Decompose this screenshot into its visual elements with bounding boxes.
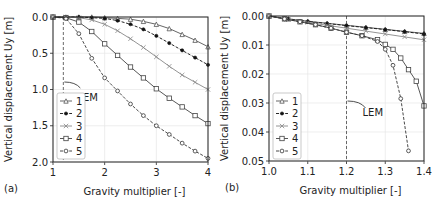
open-circle-marker bbox=[314, 23, 318, 27]
open-circle-marker bbox=[167, 133, 171, 137]
open-circle-marker bbox=[154, 124, 158, 128]
x-tick-label: 1.4 bbox=[416, 166, 432, 177]
open-circle-marker bbox=[64, 149, 68, 153]
legend-label-5: 5 bbox=[76, 146, 82, 157]
square-marker bbox=[180, 105, 184, 109]
legend-label-2: 2 bbox=[292, 108, 298, 119]
y-tick-label: 2.0 bbox=[32, 157, 48, 168]
filled-circle-marker bbox=[142, 28, 145, 31]
square-marker bbox=[193, 113, 197, 117]
triangle-marker bbox=[180, 32, 184, 36]
y-tick-label: 0.01 bbox=[242, 40, 264, 51]
x-axis-label: Gravity multiplier [-] bbox=[299, 185, 401, 196]
x-tick-label: 1.1 bbox=[300, 166, 316, 177]
y-tick-label: 1.0 bbox=[32, 84, 48, 95]
open-circle-marker bbox=[180, 141, 184, 145]
open-circle-marker bbox=[116, 89, 120, 93]
square-marker bbox=[77, 20, 81, 24]
chart-panel-b: 1.01.11.21.31.40.000.010.020.030.040.05L… bbox=[219, 11, 432, 197]
filled-circle-marker bbox=[181, 49, 184, 52]
triangle-marker bbox=[128, 17, 132, 21]
legend-label-4: 4 bbox=[292, 133, 298, 144]
chart-panel-a: 12340.00.51.01.52.0LEM12345Gravity multi… bbox=[3, 12, 211, 198]
x-marker bbox=[167, 64, 171, 68]
open-circle-marker bbox=[103, 76, 107, 80]
x-tick-label: 3 bbox=[153, 167, 159, 178]
square-marker bbox=[90, 29, 94, 33]
filled-circle-marker bbox=[384, 28, 387, 31]
filled-circle-marker bbox=[364, 26, 367, 29]
panel-label: (b) bbox=[225, 182, 239, 193]
y-tick-label: 0.04 bbox=[242, 127, 264, 138]
lem-label: LEM bbox=[363, 107, 384, 118]
legend-label-5: 5 bbox=[292, 146, 298, 157]
x-marker bbox=[180, 73, 184, 77]
open-circle-marker bbox=[77, 32, 81, 36]
square-marker bbox=[399, 56, 403, 60]
square-marker bbox=[406, 67, 410, 71]
x-marker bbox=[128, 37, 132, 41]
filled-circle-marker bbox=[155, 34, 158, 37]
y-tick-label: 0.5 bbox=[32, 48, 48, 59]
x-tick-label: 1.2 bbox=[339, 166, 355, 177]
open-circle-marker bbox=[407, 149, 411, 153]
legend-label-1: 1 bbox=[292, 96, 298, 107]
y-axis-label: Vertical displacement Uy [m] bbox=[219, 16, 230, 161]
x-tick-label: 2 bbox=[101, 167, 107, 178]
square-marker bbox=[128, 65, 132, 69]
square-marker bbox=[141, 76, 145, 80]
open-circle-marker bbox=[193, 149, 197, 153]
square-marker bbox=[64, 136, 68, 140]
open-circle-marker bbox=[345, 30, 349, 34]
triangle-marker bbox=[193, 38, 197, 42]
square-marker bbox=[383, 42, 387, 46]
filled-circle-marker bbox=[64, 112, 67, 115]
filled-circle-marker bbox=[129, 23, 132, 26]
x-tick-label: 1 bbox=[50, 167, 56, 178]
triangle-marker bbox=[167, 26, 171, 30]
open-circle-marker bbox=[391, 63, 395, 67]
open-circle-marker bbox=[383, 47, 387, 51]
legend: 12345 bbox=[57, 93, 85, 159]
open-circle-marker bbox=[283, 17, 287, 21]
legend-label-2: 2 bbox=[76, 108, 82, 119]
square-marker bbox=[391, 47, 395, 51]
filled-circle-marker bbox=[403, 30, 406, 33]
y-tick-label: 0.02 bbox=[242, 69, 264, 80]
legend-label-1: 1 bbox=[76, 96, 82, 107]
x-tick-label: 1.0 bbox=[261, 166, 277, 177]
figure: 12340.00.51.01.52.0LEM12345Gravity multi… bbox=[0, 0, 444, 206]
legend-label-4: 4 bbox=[76, 133, 82, 144]
filled-circle-marker bbox=[168, 42, 171, 45]
filled-circle-marker bbox=[193, 56, 196, 59]
open-circle-marker bbox=[360, 34, 364, 38]
square-marker bbox=[154, 87, 158, 91]
triangle-marker bbox=[154, 22, 158, 26]
panel-label: (a) bbox=[4, 183, 18, 194]
open-circle-marker bbox=[376, 40, 380, 44]
filled-circle-marker bbox=[116, 19, 119, 22]
open-circle-marker bbox=[280, 149, 284, 153]
open-circle-marker bbox=[399, 97, 403, 101]
x-tick-label: 1.3 bbox=[377, 166, 393, 177]
y-tick-label: 0.05 bbox=[242, 156, 264, 167]
open-circle-marker bbox=[129, 102, 133, 106]
square-marker bbox=[167, 96, 171, 100]
square-marker bbox=[414, 79, 418, 83]
x-marker bbox=[115, 29, 119, 33]
filled-circle-marker bbox=[280, 112, 283, 115]
open-circle-marker bbox=[142, 114, 146, 118]
legend: 12345 bbox=[273, 93, 301, 159]
open-circle-marker bbox=[90, 56, 94, 60]
y-tick-label: 1.5 bbox=[32, 120, 48, 131]
x-marker bbox=[193, 80, 197, 84]
legend-label-3: 3 bbox=[76, 121, 82, 132]
y-tick-label: 0.03 bbox=[242, 98, 264, 109]
lem-pointer bbox=[64, 82, 80, 88]
square-marker bbox=[280, 136, 284, 140]
x-tick-label: 4 bbox=[205, 167, 211, 178]
legend-label-3: 3 bbox=[292, 121, 298, 132]
y-tick-label: 0.00 bbox=[242, 11, 264, 22]
y-axis-label: Vertical displacement Uy [m] bbox=[3, 17, 14, 162]
open-circle-marker bbox=[298, 20, 302, 24]
